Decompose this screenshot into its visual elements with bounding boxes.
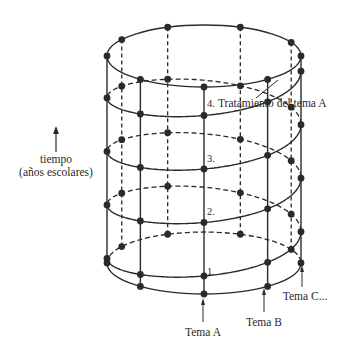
topic-c: Tema C... — [283, 265, 328, 302]
time-arrow-icon — [53, 126, 59, 134]
top-ring-node — [298, 53, 305, 60]
topic-a: Tema A — [185, 298, 222, 338]
helix-node — [137, 164, 144, 171]
helix-node — [164, 129, 171, 136]
helix-node — [298, 175, 305, 182]
level-label-3: 3. — [207, 153, 215, 164]
top-ring-node — [201, 84, 208, 91]
helix-node — [264, 205, 271, 212]
bottom-ring-node — [237, 231, 244, 238]
helix-node — [237, 82, 244, 89]
helix-node — [104, 148, 111, 155]
top-ring-back — [107, 25, 301, 56]
helix-node — [118, 190, 125, 197]
topic-a-arrow-icon — [201, 298, 205, 305]
top-ring-node — [118, 36, 125, 43]
helix-node — [104, 255, 111, 262]
level-label-4: 4. — [207, 98, 215, 109]
time-axis-label: tiempo — [40, 153, 72, 166]
helix-node — [298, 228, 305, 235]
helix-node — [237, 189, 244, 196]
topic-b: Tema B — [246, 288, 282, 328]
time-axis: tiempo (años escolares) — [19, 126, 93, 179]
helix-node — [201, 166, 208, 173]
bottom-ring-node — [164, 231, 171, 238]
topic-b-arrow-icon — [262, 288, 266, 295]
helix-node — [201, 219, 208, 226]
top-ring-node — [137, 76, 144, 83]
helix-node — [104, 201, 111, 208]
bottom-ring-node — [201, 291, 208, 298]
cylinder-front-layer — [107, 56, 301, 294]
top-ring-node — [237, 24, 244, 31]
level-label-2: 2. — [207, 206, 215, 217]
spiral-curriculum-diagram: tiempo (años escolares) 1. 2. 3. 4. Trat… — [0, 0, 345, 351]
topic-a-label: Tema A — [185, 326, 222, 338]
helix-node — [118, 136, 125, 143]
topic-b-label: Tema B — [246, 316, 282, 328]
bottom-ring-node — [298, 260, 305, 267]
bottom-ring-node — [288, 246, 295, 253]
helix-node — [164, 183, 171, 190]
helix-node — [137, 271, 144, 278]
top-ring-node — [288, 39, 295, 46]
time-axis-sublabel: (años escolares) — [19, 166, 93, 179]
helix-node — [201, 112, 208, 119]
helix-node — [264, 259, 271, 266]
helix-node — [164, 76, 171, 83]
helix-node — [288, 211, 295, 218]
top-ring-node — [104, 53, 111, 60]
bottom-ring-node — [118, 243, 125, 250]
helix-node — [264, 152, 271, 159]
helix-node — [288, 157, 295, 164]
helix-node — [298, 68, 305, 75]
helix-node — [118, 83, 125, 90]
bottom-ring-node — [137, 283, 144, 290]
top-ring-node — [264, 76, 271, 83]
top-ring-node — [164, 24, 171, 31]
helix-node — [298, 121, 305, 128]
level-4-annotation: Tratamiento del tema A — [218, 97, 327, 109]
topic-c-label: Tema C... — [283, 290, 328, 302]
level-label-1: 1. — [207, 266, 215, 277]
helix-node — [137, 111, 144, 118]
bottom-ring-node — [264, 283, 271, 290]
helix-node — [104, 94, 111, 101]
helix-node — [237, 136, 244, 143]
helix-node — [137, 218, 144, 225]
